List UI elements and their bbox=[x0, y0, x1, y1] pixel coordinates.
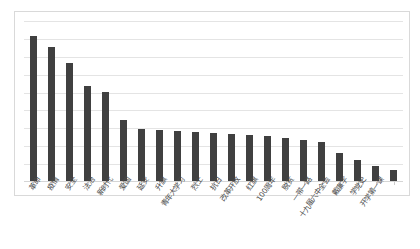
x-axis-label: 烈士 bbox=[191, 176, 205, 192]
x-axis-label: 疫情 bbox=[46, 176, 60, 192]
bar bbox=[84, 86, 91, 181]
bar bbox=[66, 63, 73, 181]
x-axis-label: 升旗 bbox=[155, 176, 169, 192]
bar bbox=[264, 136, 271, 181]
x-axis-label: 革命 bbox=[28, 176, 42, 192]
x-axis-label: 抗日 bbox=[209, 176, 223, 192]
x-axis-label: 法治 bbox=[82, 176, 96, 192]
plot-area bbox=[24, 21, 403, 182]
x-axis-label: 脱贫 bbox=[281, 176, 295, 192]
bar bbox=[228, 134, 235, 181]
bars-layer bbox=[24, 21, 403, 182]
x-axis-label: 新时代 bbox=[96, 176, 114, 197]
bar bbox=[156, 130, 163, 181]
bar bbox=[138, 129, 145, 181]
x-axis-label: 延安 bbox=[136, 176, 150, 192]
bar bbox=[174, 131, 181, 181]
bar bbox=[48, 47, 55, 181]
bar bbox=[192, 132, 199, 181]
bar bbox=[30, 36, 37, 181]
bar bbox=[120, 120, 127, 181]
x-axis-label: 戴廉字 bbox=[331, 176, 349, 197]
bar bbox=[210, 133, 217, 181]
bar-chart-figure bbox=[14, 11, 410, 196]
x-axis-category-labels: 革命疫情安全法治新时代爱国延安升旗青年大学习烈士抗日改革开放红旗100周年脱贫一… bbox=[14, 176, 410, 249]
bar bbox=[102, 92, 109, 181]
x-axis-label: 爱国 bbox=[118, 176, 132, 192]
x-axis-label: 安全 bbox=[64, 176, 78, 192]
x-axis-label: 红旗 bbox=[245, 176, 259, 192]
